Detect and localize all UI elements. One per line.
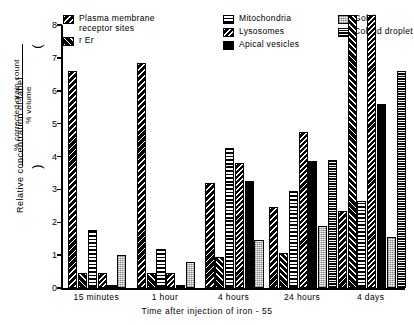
bar-0-3 [98, 273, 107, 288]
bar-3-4 [308, 161, 317, 288]
bar-3-6 [328, 160, 337, 288]
x-group-label-4: 4 days [336, 292, 405, 302]
x-group-label-2: 4 hours [199, 292, 268, 302]
bar-2-1 [215, 257, 224, 288]
bar-0-0 [68, 71, 77, 288]
bar-0-4 [107, 285, 116, 288]
x-axis-line [61, 288, 405, 290]
x-axis-title: Time after injection of iron - 55 [0, 306, 414, 316]
bar-4-1 [348, 15, 357, 288]
bar-4-2 [357, 201, 366, 288]
y-tick-8 [57, 24, 62, 26]
y-tick-2 [57, 222, 62, 224]
y-tick-4 [57, 156, 62, 158]
bar-3-3 [299, 132, 308, 288]
y-axis-numerator: % corrected grain count [12, 44, 23, 166]
y-tick-label-4: 4 [52, 152, 57, 161]
plot-area: 012345678 [62, 25, 405, 288]
bar-2-2 [225, 148, 234, 288]
y-tick-label-5: 5 [52, 119, 57, 128]
bar-1-5 [186, 262, 195, 288]
y-axis-paren-close: ) [30, 164, 43, 168]
bar-2-3 [235, 163, 244, 288]
bar-1-4 [176, 285, 185, 288]
bar-3-5 [318, 226, 327, 288]
y-tick-6 [57, 90, 62, 92]
y-tick-label-1: 1 [52, 251, 57, 260]
bar-4-3 [367, 15, 376, 288]
bar-chart: Plasma membrane receptor sites r Er Mito… [0, 0, 414, 325]
y-tick-label-7: 7 [52, 53, 57, 62]
bar-4-4 [377, 104, 386, 288]
legend-swatch-plasma-membrane-icon [63, 15, 74, 24]
bar-1-0 [137, 63, 146, 288]
bar-0-5 [117, 255, 126, 288]
bar-3-0 [269, 207, 278, 288]
y-tick-label-6: 6 [52, 86, 57, 95]
bar-1-2 [156, 249, 165, 288]
bar-0-2 [88, 230, 97, 288]
bar-2-5 [254, 240, 263, 288]
y-tick-label-2: 2 [52, 218, 57, 227]
bar-4-5 [387, 237, 396, 288]
legend-label-mitochondria: Mitochondria [239, 14, 291, 24]
bar-3-2 [289, 191, 298, 288]
legend-item-mitochondria: Mitochondria [223, 14, 333, 24]
bar-2-0 [205, 183, 214, 288]
y-tick-label-0: 0 [52, 284, 57, 293]
legend-swatch-mitochondria-icon [223, 15, 234, 24]
x-group-label-0: 15 minutes [62, 292, 131, 302]
bar-1-1 [147, 273, 156, 288]
bar-1-3 [166, 273, 175, 288]
y-axis-denominator: % volume [23, 44, 33, 166]
y-axis-paren-open: ( [30, 44, 43, 48]
bar-3-1 [279, 253, 288, 288]
y-tick-0 [57, 287, 62, 289]
bar-0-1 [78, 273, 87, 288]
y-tick-7 [57, 57, 62, 59]
y-tick-label-8: 8 [52, 21, 57, 30]
x-group-label-1: 1 hour [131, 292, 200, 302]
bar-4-0 [338, 211, 347, 288]
bar-2-4 [245, 181, 254, 288]
y-tick-5 [57, 123, 62, 125]
y-tick-3 [57, 189, 62, 191]
y-tick-label-3: 3 [52, 185, 57, 194]
y-tick-1 [57, 254, 62, 256]
x-group-label-3: 24 hours [268, 292, 337, 302]
bar-4-6 [397, 71, 406, 288]
